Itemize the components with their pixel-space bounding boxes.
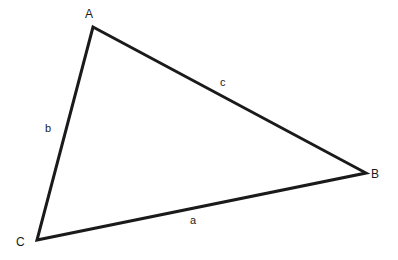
triangle-outline xyxy=(37,27,366,240)
side-label-a: a xyxy=(190,215,196,226)
diagram-canvas: A B C a b c xyxy=(0,0,398,260)
vertex-label-b: B xyxy=(371,168,379,180)
vertex-label-a: A xyxy=(85,8,93,20)
side-label-b: b xyxy=(45,123,51,134)
triangle-svg xyxy=(0,0,398,260)
side-label-c: c xyxy=(220,77,226,88)
vertex-label-c: C xyxy=(16,236,25,248)
